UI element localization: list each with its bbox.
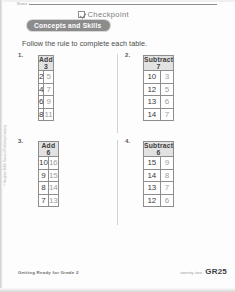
problem-1-number: 1. — [18, 52, 23, 58]
table-row: 10 16 — [39, 157, 59, 170]
table-header-row: Subtract 7 — [144, 56, 174, 71]
cell-output[interactable]: 11 — [44, 108, 53, 121]
problem-3-table: Add 6 10 16 9 15 8 14 7 13 — [38, 141, 59, 207]
table-row: 15 9 — [144, 157, 174, 170]
name-field-row: Name — [17, 2, 217, 6]
problem-2-number: 2. — [125, 52, 130, 58]
cell-input: 13 — [144, 96, 161, 109]
checkpoint-label: Checkpoint — [88, 10, 130, 19]
checkpoint-marker: Checkpoint — [78, 10, 129, 19]
cell-output[interactable]: 7 — [160, 182, 173, 195]
table-row: 12 5 — [144, 83, 174, 96]
cell-output[interactable]: 8 — [160, 169, 173, 182]
name-write-line[interactable] — [29, 4, 217, 5]
problem-4-table: Subtract 6 15 9 14 8 13 7 12 6 — [143, 141, 174, 207]
cell-input: 8 — [39, 182, 49, 195]
footer-title: Getting Ready for Grade 2 — [18, 270, 79, 275]
cell-input: 9 — [39, 169, 49, 182]
table-row: 8 11 — [39, 108, 54, 121]
footer-page-words: twenty-two — [180, 270, 202, 275]
cell-output[interactable]: 7 — [160, 108, 173, 121]
cell-input: 4 — [39, 83, 44, 96]
cell-input: 12 — [144, 83, 161, 96]
table-row: 8 14 — [39, 182, 59, 195]
page-edge-left — [0, 0, 3, 292]
name-label: Name — [17, 2, 27, 6]
table-header-row: Add 6 — [39, 142, 59, 157]
cell-input: 2 — [39, 71, 44, 84]
table-row: 12 6 — [144, 194, 174, 207]
cell-input: 14 — [144, 108, 161, 121]
cell-output[interactable]: 6 — [160, 194, 173, 207]
problem-2-rule: Subtract 7 — [144, 56, 174, 71]
column-divider-bottom — [117, 140, 118, 225]
cell-input: 7 — [39, 194, 49, 207]
footer-page-code: GR25 — [205, 267, 227, 276]
problem-4-number: 4. — [125, 138, 130, 144]
table-row: 4 7 — [39, 83, 54, 96]
side-copyright-text: © Houghton Mifflin Harcourt Publishing C… — [4, 125, 7, 186]
table-row: 13 6 — [144, 96, 174, 109]
table-row: 14 8 — [144, 169, 174, 182]
problem-2-table: Subtract 7 10 3 12 5 13 6 14 7 — [143, 55, 174, 121]
concepts-and-skills-banner: Concepts and Skills — [27, 20, 110, 31]
table-row: 14 7 — [144, 108, 174, 121]
cell-input: 13 — [144, 182, 161, 195]
cell-output[interactable]: 5 — [44, 71, 53, 84]
cell-input: 8 — [39, 108, 44, 121]
table-row: 9 15 — [39, 169, 59, 182]
table-header-row: Subtract 6 — [144, 142, 174, 157]
cell-output[interactable]: 13 — [48, 194, 58, 207]
cell-output[interactable]: 16 — [48, 157, 58, 170]
cell-output[interactable]: 5 — [160, 83, 173, 96]
cell-output[interactable]: 15 — [48, 169, 58, 182]
checkbox-checked-icon — [78, 11, 85, 18]
cell-input: 15 — [144, 157, 161, 170]
cell-output[interactable]: 7 — [44, 83, 53, 96]
column-divider-top — [117, 54, 118, 133]
problem-3-rule: Add 6 — [39, 142, 59, 157]
table-row: 7 13 — [39, 194, 59, 207]
table-row: 13 7 — [144, 182, 174, 195]
cell-output[interactable]: 14 — [48, 182, 58, 195]
cell-input: 14 — [144, 169, 161, 182]
cell-input: 10 — [39, 157, 49, 170]
problem-3-number: 3. — [18, 138, 23, 144]
table-row: 10 3 — [144, 71, 174, 84]
cell-output[interactable]: 3 — [160, 71, 173, 84]
footer-page-group: twenty-two GR25 — [180, 267, 227, 276]
banner-label: Concepts and Skills — [34, 22, 101, 29]
cell-input: 10 — [144, 71, 161, 84]
cell-output[interactable]: 9 — [44, 96, 53, 109]
cell-input: 6 — [39, 96, 44, 109]
table-header-row: Add 3 — [39, 56, 54, 71]
problem-1-rule: Add 3 — [39, 56, 54, 71]
instruction-text: Follow the rule to complete each table. — [22, 39, 147, 48]
table-row: 2 5 — [39, 71, 54, 84]
cell-output[interactable]: 9 — [160, 157, 173, 170]
problem-1-table: Add 3 2 5 4 7 6 9 8 11 — [38, 55, 54, 121]
cell-output[interactable]: 6 — [160, 96, 173, 109]
problem-4-rule: Subtract 6 — [144, 142, 174, 157]
table-row: 6 9 — [39, 96, 54, 109]
page-edge-bottom — [0, 288, 235, 292]
cell-input: 12 — [144, 194, 161, 207]
worksheet-page: Name Checkpoint Concepts and Skills Foll… — [0, 0, 235, 292]
